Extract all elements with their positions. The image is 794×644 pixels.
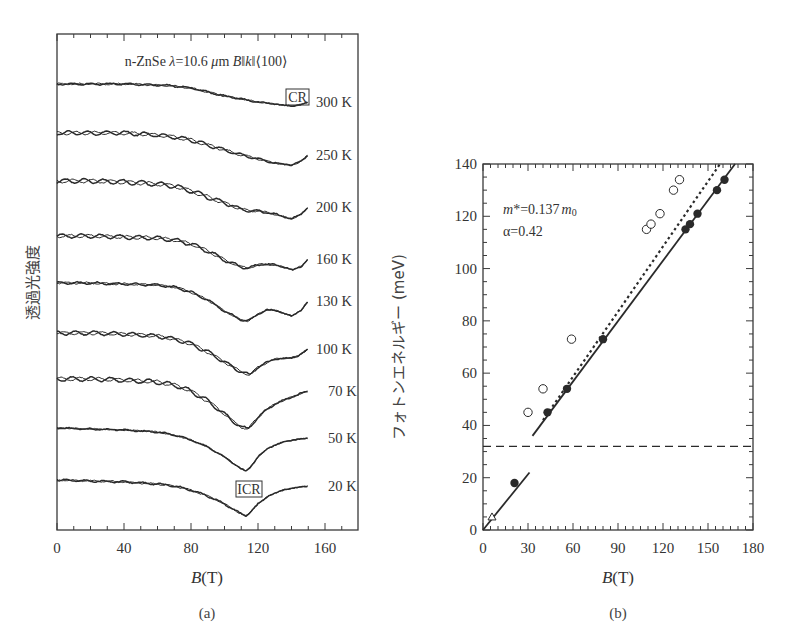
panel-a-transmission-spectra: 04080120160 300 K250 K200 K160 K130 K100… <box>24 34 358 622</box>
spectrum-curve <box>57 282 308 322</box>
panel-b-x-axis-title: B(T) <box>602 568 634 587</box>
x-tick-label: 180 <box>742 540 765 556</box>
panel-b-energy-vs-field: 0306090120150180 020406080100120140 m*=0… <box>390 156 764 622</box>
x-tick-label: 60 <box>566 540 581 556</box>
x-tick-label: 90 <box>611 540 626 556</box>
panel-a-curves <box>57 83 308 516</box>
panel-a-x-tick-labels: 04080120160 <box>53 540 336 556</box>
y-tick-label: 20 <box>462 470 477 486</box>
open-data-point <box>647 220 655 228</box>
icr-label-box: ICR <box>236 481 262 497</box>
temperature-label: 130 K <box>316 293 352 309</box>
panel-b-caption: (b) <box>609 605 627 622</box>
filled-data-point <box>599 335 607 343</box>
filled-data-point <box>543 408 551 416</box>
spectrum-curve <box>57 479 308 515</box>
spectrum-curve <box>57 234 308 270</box>
panel-a-frame <box>57 34 358 530</box>
spectrum-curve <box>57 479 308 516</box>
y-tick-label: 40 <box>462 417 477 433</box>
open-data-point <box>675 175 683 183</box>
cr-label: CR <box>288 90 307 105</box>
temperature-label: 100 K <box>316 341 352 357</box>
alpha-annotation: α=0.42 <box>503 224 543 239</box>
x-tick-label: 160 <box>314 540 337 556</box>
x-tick-label: 0 <box>53 540 61 556</box>
panel-a-caption: (a) <box>199 605 216 622</box>
effective-mass-annotation: m*=0.137m0 <box>503 202 577 218</box>
x-tick-label: 30 <box>521 540 536 556</box>
x-tick-label: 80 <box>184 540 199 556</box>
temperature-label: 50 K <box>328 430 357 446</box>
panel-a-temperature-labels: 300 K250 K200 K160 K130 K100 K70 K50 K20… <box>316 94 357 494</box>
icr-label: ICR <box>237 482 261 497</box>
filled-data-point <box>686 220 694 228</box>
spectrum-curve <box>57 179 308 219</box>
spectrum-curve <box>57 427 308 470</box>
y-tick-label: 100 <box>455 261 478 277</box>
spectrum-curve <box>57 234 308 270</box>
spectrum-curve <box>57 377 308 429</box>
temperature-label: 250 K <box>316 147 352 163</box>
panel-b-y-tick-labels: 020406080100120140 <box>455 156 478 538</box>
spectrum-curve <box>57 428 308 471</box>
panel-b-ticks <box>483 164 753 530</box>
y-tick-label: 0 <box>470 522 478 538</box>
filled-data-point <box>563 385 571 393</box>
temperature-label: 70 K <box>328 383 357 399</box>
panel-a-title: n-ZnSe λ=10.6 μm B‖k‖⟨100⟩ <box>125 54 288 69</box>
open-data-point <box>656 209 664 217</box>
x-tick-label: 150 <box>697 540 720 556</box>
panel-a-x-axis-title: B(T) <box>191 568 223 587</box>
spectrum-curve <box>57 331 308 374</box>
temperature-label: 200 K <box>316 199 352 215</box>
x-tick-label: 120 <box>247 540 270 556</box>
y-tick-label: 140 <box>455 156 478 172</box>
spectrum-curve <box>57 131 308 166</box>
spectrum-curve <box>57 282 308 322</box>
panel-b-fit-lines <box>483 164 753 530</box>
cr-label-box: CR <box>286 89 309 105</box>
x-tick-label: 40 <box>117 540 132 556</box>
filled-data-point <box>510 479 518 487</box>
open-data-point <box>524 408 532 416</box>
spectrum-curve <box>57 332 308 376</box>
filled-data-point <box>693 209 701 217</box>
y-tick-label: 80 <box>462 313 477 329</box>
panel-a-y-axis-title: 透過光強度 <box>24 245 42 320</box>
open-data-point <box>567 335 575 343</box>
panel-a-ticks <box>57 34 342 530</box>
spectrum-curve <box>57 179 308 219</box>
filled-data-point <box>713 186 721 194</box>
y-tick-label: 120 <box>455 208 478 224</box>
x-tick-label: 120 <box>652 540 675 556</box>
panel-b-y-axis-title: フォトンエネルギー (meV) <box>390 254 408 440</box>
panel-b-x-tick-labels: 0306090120150180 <box>479 540 764 556</box>
solid-line <box>483 472 530 530</box>
temperature-label: 300 K <box>316 94 352 110</box>
open-data-point <box>669 186 677 194</box>
open-data-point <box>539 385 547 393</box>
temperature-label: 160 K <box>316 251 352 267</box>
figure: 04080120160 300 K250 K200 K160 K130 K100… <box>0 0 794 644</box>
panel-b-frame <box>483 164 753 530</box>
filled-data-point <box>720 175 728 183</box>
x-tick-label: 0 <box>479 540 487 556</box>
y-tick-label: 60 <box>462 365 477 381</box>
temperature-label: 20 K <box>328 478 357 494</box>
spectrum-curve <box>57 377 308 429</box>
